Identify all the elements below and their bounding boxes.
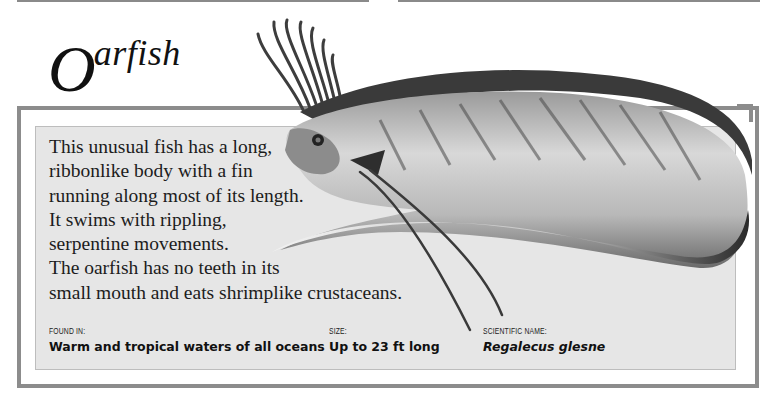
fact-size: Size: Up to 23 ft long [329,326,440,354]
title-rest: arfish [94,33,181,73]
description-line: serpentine movements. [49,232,402,256]
fact-value: Warm and tropical waters of all oceans [49,339,325,354]
fact-scientific-name: Scientific name: Regalecus glesne [483,326,605,354]
description-line: running along most of its length. [49,184,402,208]
top-rule-right [398,0,760,2]
description: This unusual fish has a long, ribbonlike… [49,135,402,305]
title-drop-cap: O [48,32,96,105]
description-line: It swims with rippling, [49,208,402,232]
description-line: small mouth and eats shrimplike crustace… [49,281,402,305]
fact-found-in: Found in: Warm and tropical waters of al… [49,326,325,354]
fact-value: Up to 23 ft long [329,339,440,354]
description-line: This unusual fish has a long, [49,135,402,159]
fact-label: Size: [329,326,417,336]
page-title: Oarfish [48,36,181,102]
fact-label: Scientific name: [483,326,581,336]
description-line: The oarfish has no teeth in its [49,256,402,280]
fact-value: Regalecus glesne [483,339,605,354]
top-rule-left [17,0,369,2]
crest-rays [258,20,340,112]
fact-label: Found in: [49,326,270,336]
description-line: ribbonlike body with a fin [49,159,402,183]
